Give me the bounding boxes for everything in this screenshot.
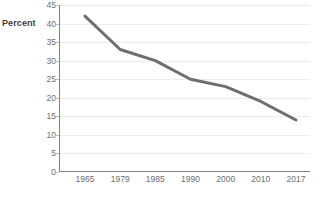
y-tick-label: 20 (47, 93, 56, 102)
x-tick-label: 2010 (251, 174, 270, 185)
plot-area (59, 5, 310, 172)
series-line-percent (59, 5, 310, 172)
x-tick-label: 1990 (181, 174, 200, 185)
x-tick-label: 2000 (216, 174, 235, 185)
x-tick-label: 2017 (287, 174, 306, 185)
y-tick-mark (56, 172, 59, 173)
x-tick-label: 1979 (111, 174, 130, 185)
x-tick-label: 1985 (146, 174, 165, 185)
line-chart: Percent 051015202530354045 1965197919851… (0, 0, 322, 199)
y-tick-label: 15 (47, 112, 56, 121)
y-tick-label: 10 (47, 130, 56, 139)
y-tick-label: 30 (47, 56, 56, 65)
y-tick-label: 40 (47, 19, 56, 28)
y-axis-title: Percent (2, 18, 36, 28)
x-axis-tick-labels: 1965197919851990200020102017 (59, 174, 310, 188)
y-tick-label: 25 (47, 75, 56, 84)
y-tick-label: 35 (47, 38, 56, 47)
y-axis-tick-labels: 051015202530354045 (36, 5, 56, 172)
y-tick-label: 45 (47, 1, 56, 10)
x-tick-label: 1965 (76, 174, 95, 185)
